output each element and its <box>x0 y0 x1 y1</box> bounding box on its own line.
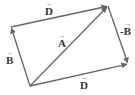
label-d-top: → D <box>45 2 53 17</box>
vector-a-arrow <box>30 8 107 87</box>
vector-d-top-arrow <box>11 7 107 28</box>
label-b: → B <box>6 51 13 66</box>
label-d-bottom: → D <box>80 76 88 91</box>
vector-diagram <box>0 0 135 95</box>
vector-b-arrow <box>12 29 31 87</box>
label-neg-b: → -B <box>120 22 131 37</box>
label-a: → A <box>58 34 66 49</box>
vector-d-bottom-arrow <box>30 64 127 86</box>
